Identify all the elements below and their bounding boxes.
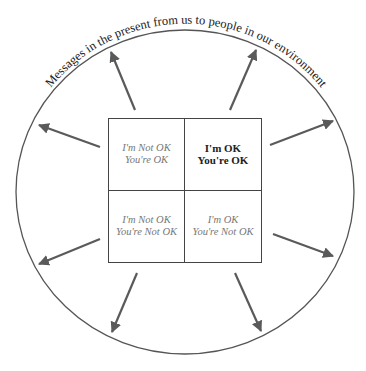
- quadrant-line1: I'm OK: [205, 142, 241, 154]
- quadrant-not-ok-ok: I'm Not OK You're OK: [109, 119, 185, 191]
- arrow-right-down: [273, 234, 333, 256]
- quadrant-line2: You're OK: [125, 154, 168, 166]
- arc-label: Messages in the present from us to peopl…: [42, 13, 330, 91]
- arrow-right-up: [270, 121, 333, 145]
- quadrant-line1: I'm OK: [208, 214, 239, 226]
- quadrant-ok-ok: I'm OK You're OK: [185, 119, 261, 191]
- quadrant-not-ok-not-ok: I'm Not OK You're Not OK: [109, 191, 185, 263]
- quadrant-ok-not-ok: I'm OK You're Not OK: [185, 191, 261, 263]
- quadrant-line1: I'm Not OK: [122, 214, 170, 226]
- arrow-down-left: [112, 273, 137, 332]
- quadrant-line1: I'm Not OK: [122, 142, 170, 154]
- arrow-left-up: [39, 125, 100, 147]
- arrow-left-down: [39, 239, 100, 264]
- quadrant-line2: You're Not OK: [193, 226, 254, 238]
- quadrant-line2: You're Not OK: [116, 226, 177, 238]
- arrow-down-right: [235, 273, 261, 331]
- arrow-up-right: [230, 50, 256, 110]
- quadrant-line2: You're OK: [198, 154, 249, 166]
- arrow-up-left: [111, 52, 135, 110]
- ok-corral-grid: I'm Not OK You're OK I'm OK You're OK I'…: [108, 118, 262, 263]
